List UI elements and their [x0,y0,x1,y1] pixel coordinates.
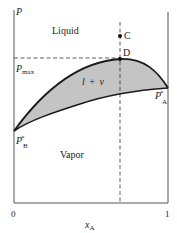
two-phase-label: l + v [82,76,104,87]
pa-subscript: A [162,98,167,106]
region-liquid-label: Liquid [52,25,79,36]
point-d-label: D [123,47,130,58]
two-phase-v: v [99,76,104,87]
two-phase-region [14,59,168,131]
pmax-label: Pmax [15,63,35,76]
two-phase-l: l [82,76,85,87]
pb-subscript: B [23,142,28,150]
point-c-marker [118,34,122,38]
two-phase-plus: + [89,76,95,87]
point-d-marker [118,57,122,61]
x-axis-label: xA [84,219,95,232]
point-c-label: C [124,30,131,41]
x-tick-1: 1 [165,209,170,219]
region-vapor-label: Vapor [60,149,85,160]
y-axis-label: P [15,6,22,17]
x-tick-0: 0 [11,209,16,219]
phase-diagram: P Liquid Vapor l + v C D Pmax P* A P* B … [0,0,177,233]
